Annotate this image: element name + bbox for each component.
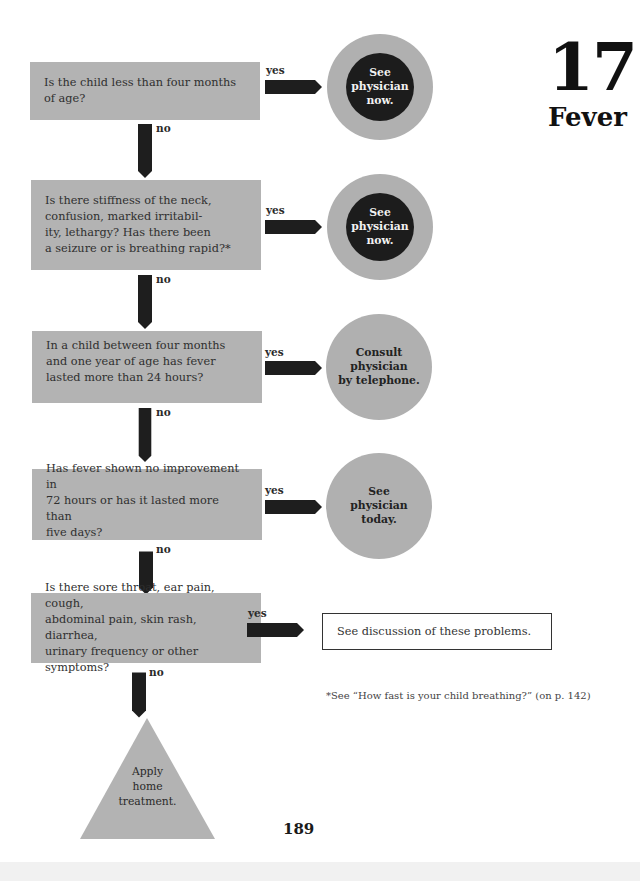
question-box-2: Is there stiffness of the neck, confusio…	[31, 180, 261, 270]
no-arrow-icon-1	[138, 124, 152, 178]
outcome-circle-4: See physician today.	[326, 453, 432, 559]
question-box-4: Has fever shown no improvement in 72 hou…	[32, 469, 262, 540]
question-text-2: Is there stiffness of the neck, confusio…	[45, 193, 231, 257]
question-box-1: Is the child less than four months of ag…	[30, 62, 260, 120]
question-text-1: Is the child less than four months of ag…	[44, 75, 236, 107]
no-label-5: no	[149, 666, 164, 678]
page-edge	[0, 862, 640, 881]
question-text-5: Is there sore throat, ear pain, cough, a…	[45, 580, 247, 676]
no-label-3: no	[156, 406, 171, 418]
no-arrow-icon-2	[138, 275, 152, 329]
question-box-5: Is there sore throat, ear pain, cough, a…	[31, 593, 261, 663]
yes-arrow-icon-1	[265, 80, 322, 94]
yes-arrow-icon-5	[247, 623, 304, 637]
yes-label-2: yes	[266, 204, 285, 216]
outcome-text-1: See physician now.	[346, 53, 414, 121]
yes-arrow-icon-4	[265, 500, 322, 514]
footnote: *See “How fast is your child breathing?”…	[326, 690, 591, 701]
outcome-text-2: See physician now.	[346, 193, 414, 261]
home-treatment-text: Apply home treatment.	[80, 764, 215, 809]
yes-label-1: yes	[266, 64, 285, 76]
see-discussion-box: See discussion of these problems.	[322, 613, 552, 650]
no-label-1: no	[156, 122, 171, 134]
question-box-3: In a child between four months and one y…	[32, 331, 262, 403]
yes-arrow-icon-3	[265, 361, 322, 375]
outcome-text-4: See physician today.	[350, 485, 407, 527]
outcome-text-3: Consult physician by telephone.	[338, 346, 420, 388]
yes-label-4: yes	[265, 484, 284, 496]
outcome-circle-2: See physician now.	[327, 174, 433, 280]
no-arrow-icon-3	[138, 408, 152, 462]
home-treatment-triangle: Apply home treatment.	[80, 718, 215, 839]
no-arrow-icon-5	[132, 668, 146, 722]
page-number: 189	[283, 820, 314, 838]
outcome-circle-1: See physician now.	[327, 34, 433, 140]
question-text-3: In a child between four months and one y…	[46, 338, 225, 386]
outcome-circle-3: Consult physician by telephone.	[326, 314, 432, 420]
chapter-title: Fever	[548, 102, 627, 132]
yes-arrow-icon-2	[265, 220, 322, 234]
yes-label-3: yes	[265, 346, 284, 358]
no-label-2: no	[156, 273, 171, 285]
no-label-4: no	[156, 543, 171, 555]
see-discussion-text: See discussion of these problems.	[337, 625, 531, 638]
yes-label-5: yes	[248, 607, 267, 619]
question-text-4: Has fever shown no improvement in 72 hou…	[46, 461, 248, 541]
chapter-number: 17	[548, 34, 636, 100]
